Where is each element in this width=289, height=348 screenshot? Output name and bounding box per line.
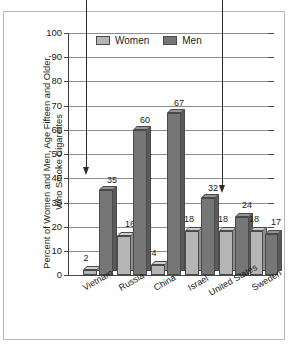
- y-tick-80: [64, 81, 69, 82]
- y-label-80: 80: [36, 76, 62, 85]
- legend: Women Men: [96, 32, 202, 48]
- y-label-30: 30: [36, 198, 62, 207]
- y-tick-70: [64, 106, 69, 107]
- value-sweden-men: 17: [268, 217, 284, 227]
- bar-vietnam-women[interactable]: [83, 270, 97, 275]
- y-tick-20: [64, 227, 69, 228]
- y-label-50: 50: [36, 149, 62, 158]
- y-tick-right-60: [268, 130, 274, 131]
- bar-face: [201, 198, 215, 275]
- y-tick-right-40: [268, 178, 274, 179]
- y-tick-40: [64, 178, 69, 179]
- y-tick-30: [64, 203, 69, 204]
- bar-face: [151, 265, 165, 275]
- y-tick-0: [64, 275, 69, 276]
- y-label-40: 40: [36, 173, 62, 182]
- value-china-women: 4: [147, 248, 161, 258]
- value-united-states-men: 24: [239, 200, 255, 210]
- bar-face: [117, 236, 131, 275]
- legend-item-men[interactable]: Men: [163, 35, 201, 46]
- value-russia-men: 60: [137, 115, 153, 125]
- bar-side: [278, 230, 282, 271]
- y-label-0: 0: [36, 270, 62, 279]
- gridline-90: [68, 57, 274, 58]
- bar-vietnam-men[interactable]: [99, 190, 113, 275]
- y-tick-right-30: [268, 203, 274, 204]
- y-tick-right-90: [268, 57, 274, 58]
- bar-russia-men[interactable]: [133, 130, 147, 275]
- y-label-10: 10: [36, 246, 62, 255]
- y-tick-right-100: [268, 33, 274, 34]
- annotation-arrow-united-states-men-icon: [222, 0, 223, 186]
- value-sweden-women: 18: [246, 214, 262, 224]
- bar-face: [83, 270, 97, 275]
- y-tick-10: [64, 251, 69, 252]
- bar-israel-women[interactable]: [185, 231, 199, 275]
- y-tick-50: [64, 154, 69, 155]
- bar-face: [219, 231, 233, 275]
- arrow-head-icon: [83, 167, 89, 175]
- bar-united-states-women[interactable]: [219, 231, 233, 275]
- bar-face: [99, 190, 113, 275]
- y-label-60: 60: [36, 125, 62, 134]
- value-vietnam-men: 35: [104, 175, 120, 185]
- bar-face: [133, 130, 147, 275]
- bar-face: [185, 231, 199, 275]
- bar-israel-men[interactable]: [201, 198, 215, 275]
- annotation-arrow-vietnam-men-icon: [86, 0, 87, 168]
- bar-face: [167, 113, 181, 275]
- legend-swatch-men-icon: [163, 36, 177, 45]
- y-label-20: 20: [36, 222, 62, 231]
- value-china-men: 67: [171, 98, 187, 108]
- y-tick-60: [64, 130, 69, 131]
- bar-china-men[interactable]: [167, 113, 181, 275]
- chart-root: Percent of Women and Men, Age Fifteen an…: [0, 0, 289, 348]
- y-label-100: 100: [36, 28, 62, 37]
- gridline-80: [68, 81, 274, 82]
- y-tick-90: [64, 57, 69, 58]
- value-united-states-women: 18: [215, 214, 231, 224]
- y-tick-right-20: [268, 227, 274, 228]
- y-tick-right-50: [268, 154, 274, 155]
- value-vietnam-women: 2: [79, 253, 93, 263]
- y-tick-100: [64, 33, 69, 34]
- y-tick-right-70: [268, 106, 274, 107]
- bar-russia-women[interactable]: [117, 236, 131, 275]
- value-israel-women: 18: [181, 214, 197, 224]
- legend-swatch-women-icon: [96, 36, 110, 45]
- arrow-head-icon: [219, 185, 225, 193]
- legend-label-men: Men: [182, 35, 201, 46]
- bar-china-women[interactable]: [151, 265, 165, 275]
- y-tick-right-80: [268, 81, 274, 82]
- y-label-90: 90: [36, 52, 62, 61]
- legend-item-women[interactable]: Women: [96, 35, 149, 46]
- plot-area: Percent of Women and Men, Age Fifteen an…: [0, 0, 289, 348]
- y-label-70: 70: [36, 101, 62, 110]
- legend-label-women: Women: [115, 35, 149, 46]
